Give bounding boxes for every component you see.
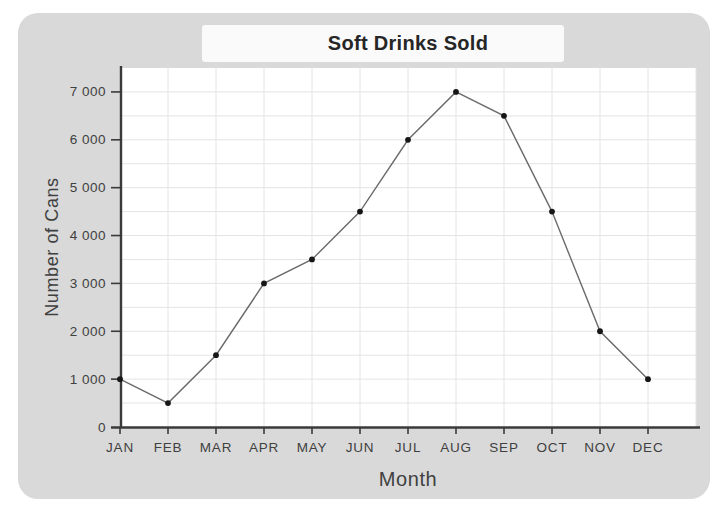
y-tick-label: 6 000 (70, 132, 106, 147)
y-tick-label: 3 000 (70, 276, 106, 291)
x-tick-label: MAY (297, 440, 328, 455)
x-tick-label: JUN (346, 440, 375, 455)
x-tick-label: JUL (395, 440, 421, 455)
data-point (357, 209, 363, 215)
y-tick-label: 4 000 (70, 228, 106, 243)
data-point (645, 376, 651, 382)
y-tick-label: 7 000 (70, 84, 106, 99)
line-chart: 01 0002 0003 0004 0005 0006 0007 000JANF… (0, 0, 721, 507)
x-tick-label: APR (249, 440, 279, 455)
y-tick-label: 2 000 (70, 324, 106, 339)
y-tick-label: 1 000 (70, 372, 106, 387)
x-tick-label: MAR (200, 440, 232, 455)
y-axis-label: Number of Cans (42, 177, 63, 316)
data-point (117, 376, 123, 382)
data-point (309, 257, 315, 263)
x-tick-label: DEC (633, 440, 664, 455)
data-point (453, 89, 459, 95)
data-point (261, 281, 267, 287)
x-tick-label: FEB (154, 440, 183, 455)
data-point (549, 209, 555, 215)
data-point (501, 113, 507, 119)
y-tick-label: 0 (98, 420, 106, 435)
x-tick-label: JAN (106, 440, 134, 455)
x-tick-label: AUG (440, 440, 472, 455)
y-tick-label: 5 000 (70, 180, 106, 195)
data-point (405, 137, 411, 143)
data-point (213, 352, 219, 358)
x-tick-label: OCT (537, 440, 568, 455)
data-point (165, 400, 171, 406)
data-point (597, 328, 603, 334)
x-tick-label: NOV (584, 440, 616, 455)
x-axis-label: Month (120, 468, 696, 491)
x-tick-label: SEP (489, 440, 518, 455)
chart-title: Soft Drinks Sold (120, 32, 696, 55)
